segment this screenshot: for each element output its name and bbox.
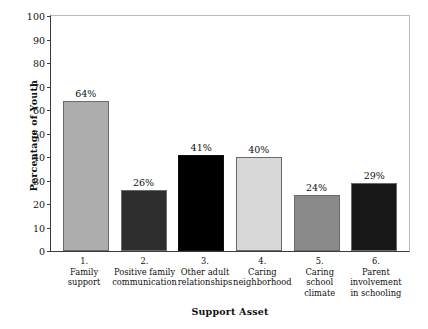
category-index: 4. bbox=[233, 256, 291, 267]
category-index: 5. bbox=[292, 256, 348, 267]
y-axis-tick-label: 40 bbox=[5, 152, 51, 163]
category-name-line: involvement bbox=[348, 277, 404, 288]
bar-slot: 40% bbox=[230, 16, 288, 251]
x-axis-category-label: 5.Caringschoolclimate bbox=[292, 256, 348, 298]
plot-area: 1009080706050403020100 64%26%41%40%24%29… bbox=[50, 15, 410, 252]
category-index: 1. bbox=[56, 256, 112, 267]
category-name-line: Caring bbox=[292, 267, 348, 278]
category-name-line: Positive family bbox=[112, 267, 177, 278]
bar[interactable]: 26% bbox=[121, 190, 167, 251]
category-name-line: in schooling bbox=[348, 288, 404, 299]
y-axis-tick-label: 80 bbox=[5, 58, 51, 69]
y-axis-tick-label: 0 bbox=[5, 246, 51, 257]
y-axis-tick-label: 50 bbox=[5, 128, 51, 139]
bar[interactable]: 24% bbox=[294, 195, 340, 251]
bar-chart-figure: Percentage of Youth 10090807060504030201… bbox=[0, 0, 428, 329]
bar-value-label: 64% bbox=[75, 88, 96, 99]
category-index: 2. bbox=[112, 256, 177, 267]
category-name-line: school bbox=[292, 277, 348, 288]
bar[interactable]: 64% bbox=[63, 101, 109, 251]
y-axis-tick-label: 100 bbox=[5, 11, 51, 22]
category-name-line: Caring bbox=[233, 267, 291, 278]
bar-value-label: 41% bbox=[191, 142, 212, 153]
bar-slot: 24% bbox=[288, 16, 346, 251]
y-axis-tick-label: 10 bbox=[5, 222, 51, 233]
x-axis-category-label: 6.Parentinvolvementin schooling bbox=[348, 256, 404, 298]
x-axis-title: Support Asset bbox=[50, 306, 410, 317]
y-axis-tick-label: 20 bbox=[5, 199, 51, 210]
y-axis-tick-label: 30 bbox=[5, 175, 51, 186]
x-axis-tick-labels: 1.Familysupport2.Positive familycommunic… bbox=[50, 256, 410, 298]
category-name-line: communication bbox=[112, 277, 177, 288]
bar-slot: 26% bbox=[115, 16, 173, 251]
bar-value-label: 26% bbox=[133, 177, 154, 188]
x-axis-category-label: 3.Other adultrelationships bbox=[177, 256, 233, 298]
x-axis-category-label: 2.Positive familycommunication bbox=[112, 256, 177, 298]
bar-slot: 64% bbox=[57, 16, 115, 251]
x-axis-category-label: 4.Caringneighborhood bbox=[233, 256, 291, 298]
category-name-line: climate bbox=[292, 288, 348, 299]
bar[interactable]: 41% bbox=[178, 155, 224, 251]
x-axis-category-label: 1.Familysupport bbox=[56, 256, 112, 298]
bar-value-label: 24% bbox=[306, 182, 327, 193]
y-axis-tick-label: 90 bbox=[5, 34, 51, 45]
category-name-line: Parent bbox=[348, 267, 404, 278]
y-axis-tick-mark bbox=[47, 251, 51, 252]
category-index: 6. bbox=[348, 256, 404, 267]
bar[interactable]: 40% bbox=[236, 157, 282, 251]
y-axis-tick-label: 70 bbox=[5, 81, 51, 92]
bar-value-label: 29% bbox=[364, 170, 385, 181]
bar-slot: 41% bbox=[172, 16, 230, 251]
category-name-line: relationships bbox=[177, 277, 233, 288]
category-name-line: support bbox=[56, 277, 112, 288]
category-name-line: neighborhood bbox=[233, 277, 291, 288]
category-name-line: Other adult bbox=[177, 267, 233, 278]
category-index: 3. bbox=[177, 256, 233, 267]
bar-value-label: 40% bbox=[248, 144, 269, 155]
bars-container: 64%26%41%40%24%29% bbox=[51, 16, 409, 251]
bar[interactable]: 29% bbox=[351, 183, 397, 251]
category-name-line: Family bbox=[56, 267, 112, 278]
y-axis-tick-label: 60 bbox=[5, 105, 51, 116]
bar-slot: 29% bbox=[345, 16, 403, 251]
